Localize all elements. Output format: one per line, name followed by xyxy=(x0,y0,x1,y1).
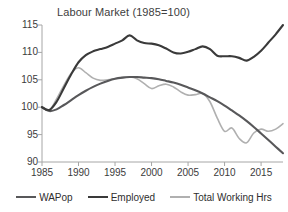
x-axis-ticks xyxy=(42,162,261,166)
legend-label: Total Working Hrs xyxy=(193,192,272,203)
legend-item[interactable]: WAPop xyxy=(16,192,73,203)
legend-label: WAPop xyxy=(39,192,73,203)
chart-plot-area xyxy=(0,0,288,212)
legend-item[interactable]: Employed xyxy=(88,192,155,203)
legend-item[interactable]: Total Working Hrs xyxy=(170,192,272,203)
chart-legend: WAPopEmployedTotal Working Hrs xyxy=(0,189,288,205)
axis-lines xyxy=(42,25,283,162)
x-axis-tick-label: 1995 xyxy=(95,168,135,178)
legend-label: Employed xyxy=(111,192,155,203)
x-axis-tick-label: 2010 xyxy=(205,168,245,178)
x-axis-tick-label: 1985 xyxy=(22,168,62,178)
data-series-group xyxy=(42,25,283,153)
x-axis-tick-label: 1990 xyxy=(59,168,99,178)
chart-container: Labour Market (1985=100) 115110105100959… xyxy=(0,0,288,212)
x-axis-tick-label: 2015 xyxy=(241,168,281,178)
x-axis-tick-label: 2000 xyxy=(132,168,172,178)
x-axis-tick-label: 2005 xyxy=(168,168,208,178)
legend-color-swatch xyxy=(88,196,108,198)
y-axis-ticks xyxy=(38,25,42,162)
legend-color-swatch xyxy=(170,196,190,198)
legend-color-swatch xyxy=(16,196,36,198)
